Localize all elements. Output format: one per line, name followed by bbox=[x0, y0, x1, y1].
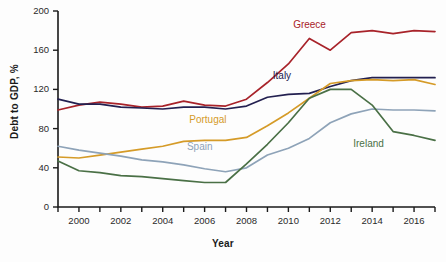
y-tick-label: 120 bbox=[15, 83, 49, 94]
series-label-italy: Italy bbox=[273, 70, 291, 81]
x-tick-label: 2014 bbox=[352, 215, 392, 226]
y-tick-label: 80 bbox=[15, 123, 49, 134]
y-tick-label: 200 bbox=[15, 5, 49, 16]
y-tick-label: 40 bbox=[15, 162, 49, 173]
x-tick-label: 2016 bbox=[394, 215, 434, 226]
y-tick-label: 0 bbox=[15, 201, 49, 212]
series-label-portugal: Portugal bbox=[189, 114, 226, 125]
x-tick-label: 2012 bbox=[310, 215, 350, 226]
series-label-ireland: Ireland bbox=[353, 138, 384, 149]
x-axis-title: Year bbox=[0, 238, 446, 249]
x-tick-label: 2002 bbox=[101, 215, 141, 226]
series-line-greece bbox=[58, 31, 435, 110]
series-label-greece: Greece bbox=[293, 19, 326, 30]
y-tick-label: 160 bbox=[15, 44, 49, 55]
series-label-spain: Spain bbox=[187, 141, 213, 152]
debt-to-gdp-line-chart: Debt to GDP, % Year 04080120160200 20002… bbox=[0, 0, 446, 262]
x-tick-label: 2004 bbox=[143, 215, 183, 226]
x-tick-label: 2008 bbox=[227, 215, 267, 226]
x-tick-label: 2000 bbox=[59, 215, 99, 226]
x-tick-label: 2006 bbox=[185, 215, 225, 226]
x-tick-label: 2010 bbox=[268, 215, 308, 226]
